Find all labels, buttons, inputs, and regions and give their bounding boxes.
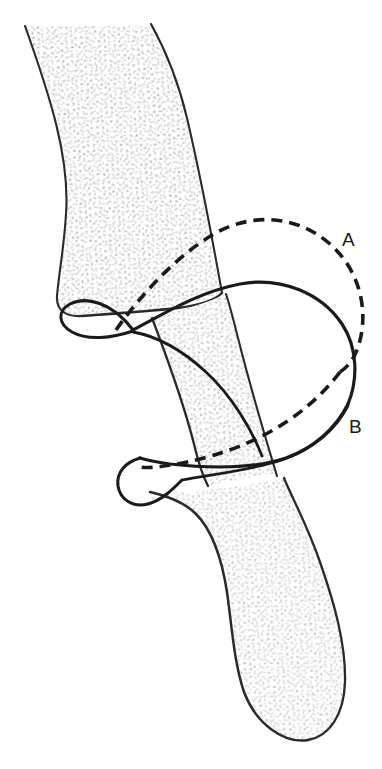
bone-neck-stipple-secondary: [120, 280, 320, 510]
anatomical-illustration: A B: [0, 0, 382, 769]
bone-lower-segment: [130, 460, 370, 760]
bone-neck-segment: [120, 280, 320, 510]
label-b: B: [349, 416, 362, 437]
label-a: A: [342, 229, 355, 250]
figure-canvas: A B: [0, 0, 382, 769]
bone-group: [0, 0, 382, 760]
